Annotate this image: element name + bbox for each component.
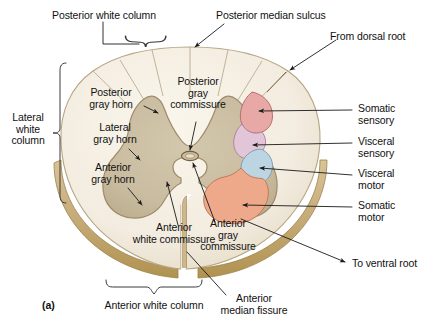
label-lateral-gray-horn: Lateral gray horn	[82, 122, 148, 145]
label-posterior-median-sulcus: Posterior median sulcus	[216, 10, 368, 22]
label-lateral-white-column: Lateral white column	[4, 112, 52, 147]
label-visceral-sensory: Visceral sensory	[358, 136, 432, 159]
label-anterior-gray-commissure: Anterior gray commissure	[189, 218, 267, 253]
brace-posterior-white-column	[126, 36, 166, 47]
figure-panel-label: (a)	[42, 300, 72, 312]
leader-from-dorsal-root	[290, 40, 336, 70]
brace-anterior-white-column	[106, 280, 202, 294]
figure-canvas: Posterior white column Posterior median …	[0, 0, 435, 324]
leader-posterior-median-sulcus	[195, 24, 224, 47]
label-somatic-motor: Somatic motor	[358, 200, 432, 223]
central-canal	[182, 151, 199, 160]
label-from-dorsal-root: From dorsal root	[330, 31, 434, 43]
spinal-cord-illustration	[0, 0, 435, 324]
label-somatic-sensory: Somatic sensory	[358, 103, 432, 126]
label-visceral-motor: Visceral motor	[358, 168, 432, 191]
leader-posterior-white-column	[103, 22, 139, 44]
label-anterior-median-fissure: Anterior median fissure	[200, 293, 308, 316]
label-posterior-gray-horn: Posterior gray horn	[76, 87, 146, 110]
label-posterior-white-column: Posterior white column	[32, 10, 176, 22]
label-to-ventral-root: To ventral root	[352, 258, 435, 270]
label-posterior-gray-commissure: Posterior gray commissure	[152, 76, 244, 111]
label-anterior-gray-horn: Anterior gray horn	[80, 162, 146, 185]
